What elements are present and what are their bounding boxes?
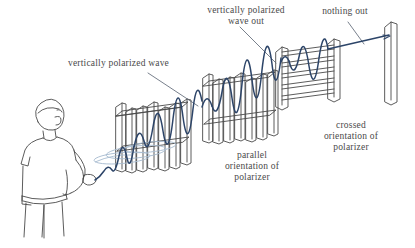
leader-vertically-polarized-wave: [148, 73, 198, 106]
label-vertically-polarized-wave-out: vertically polarized wave out: [186, 5, 306, 27]
polarizer-1-vertical-slats: [116, 99, 191, 173]
polarizer-3-crossed-horizontal-slats: [276, 39, 340, 110]
label-crossed-orientation-of-polarizer: crossed orientation of polarizer: [300, 120, 402, 153]
polarizer-2-vertical-slats: [203, 70, 278, 144]
polarization-diagram: vertically polarized wave vertically pol…: [0, 0, 415, 248]
person-figure: [21, 99, 96, 238]
label-vertically-polarized-wave: vertically polarized wave: [68, 58, 208, 69]
end-post: [385, 22, 397, 105]
label-nothing-out: nothing out: [300, 6, 390, 17]
label-parallel-orientation-of-polarizer: parallel orientation of polarizer: [204, 150, 300, 183]
